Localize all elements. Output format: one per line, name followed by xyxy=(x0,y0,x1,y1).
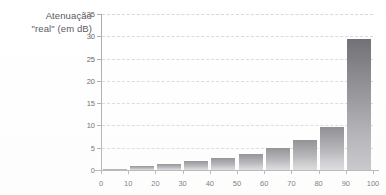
x-tick-mark xyxy=(210,170,211,174)
plot-area: 05101520253035 0102030405060708090100 xyxy=(101,14,373,170)
y-tick-mark xyxy=(97,14,101,15)
y-tick-label: 5 xyxy=(91,143,95,152)
bar xyxy=(157,164,181,170)
bar xyxy=(320,127,344,170)
bar xyxy=(103,169,127,170)
bar xyxy=(347,39,371,170)
y-tick-label: 20 xyxy=(87,76,95,85)
gridline xyxy=(102,36,373,37)
x-tick-mark xyxy=(183,170,184,174)
y-tick-label: 15 xyxy=(87,99,95,108)
attenuation-bar-chart: Atenuação "real" (em dB) 05101520253035 … xyxy=(0,0,386,195)
y-tick-mark xyxy=(97,103,101,104)
x-tick-label: 40 xyxy=(206,179,214,188)
x-tick-label: 80 xyxy=(314,179,322,188)
bar xyxy=(130,166,154,170)
x-tick-label: 20 xyxy=(151,179,159,188)
x-tick-label: 70 xyxy=(287,179,295,188)
y-axis-title-line-2: "real" (em dB) xyxy=(4,22,92,35)
bar xyxy=(239,154,263,170)
y-tick-label: 25 xyxy=(87,54,95,63)
gridline xyxy=(102,14,373,15)
gridline xyxy=(102,59,373,60)
bar xyxy=(211,158,235,170)
y-tick-label: 35 xyxy=(87,10,95,19)
y-tick-mark xyxy=(97,81,101,82)
y-axis-line xyxy=(101,14,102,170)
bar xyxy=(293,140,317,170)
y-tick-mark xyxy=(97,36,101,37)
y-tick-mark xyxy=(97,148,101,149)
x-tick-mark xyxy=(155,170,156,174)
bar xyxy=(184,161,208,170)
x-tick-mark xyxy=(319,170,320,174)
x-tick-label: 30 xyxy=(178,179,186,188)
x-tick-label: 50 xyxy=(233,179,241,188)
gridline xyxy=(102,103,373,104)
x-tick-label: 60 xyxy=(260,179,268,188)
gridline xyxy=(102,81,373,82)
y-tick-label: 10 xyxy=(87,121,95,130)
bar xyxy=(266,148,290,170)
x-tick-mark xyxy=(128,170,129,174)
x-tick-label: 10 xyxy=(124,179,132,188)
x-tick-mark xyxy=(291,170,292,174)
y-tick-label: 0 xyxy=(91,166,95,175)
x-tick-mark xyxy=(264,170,265,174)
x-tick-label: 90 xyxy=(342,179,350,188)
x-tick-label: 0 xyxy=(99,179,103,188)
y-tick-mark xyxy=(97,59,101,60)
y-axis-title: Atenuação "real" (em dB) xyxy=(4,9,92,35)
y-tick-mark xyxy=(97,125,101,126)
x-tick-mark xyxy=(346,170,347,174)
y-tick-label: 30 xyxy=(87,32,95,41)
x-tick-mark xyxy=(373,170,374,174)
x-tick-label: 100 xyxy=(367,179,380,188)
x-tick-mark xyxy=(237,170,238,174)
y-axis-title-line-1: Atenuação xyxy=(4,9,92,22)
x-tick-mark xyxy=(101,170,102,174)
